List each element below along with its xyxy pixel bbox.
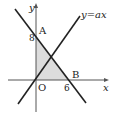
point-b-label: B xyxy=(72,69,79,80)
y-tick-8: 8 xyxy=(29,33,35,43)
x-axis-label: x xyxy=(103,82,109,93)
point-a-label: A xyxy=(38,25,47,36)
x-tick-6: 6 xyxy=(64,83,70,93)
line-y-ax xyxy=(18,16,80,104)
y-axis-label: y xyxy=(28,2,35,13)
coordinate-diagram: y x A 8 B O 6 y=ax xyxy=(0,0,118,118)
origin-label: O xyxy=(38,82,46,93)
line-y-ax-label: y=ax xyxy=(80,9,107,20)
